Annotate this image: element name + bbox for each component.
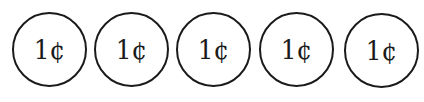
coin-label: 1¢ bbox=[281, 35, 312, 65]
coin-row: 1¢ 1¢ 1¢ 1¢ 1¢ bbox=[0, 0, 424, 102]
coin-label: 1¢ bbox=[116, 35, 147, 65]
coin-label: 1¢ bbox=[34, 35, 65, 65]
coin-1-cent: 1¢ bbox=[12, 12, 87, 87]
coin-1-cent: 1¢ bbox=[259, 12, 334, 87]
coin-1-cent: 1¢ bbox=[344, 13, 419, 88]
coin-1-cent: 1¢ bbox=[94, 12, 169, 87]
coin-label: 1¢ bbox=[366, 36, 397, 66]
coin-1-cent: 1¢ bbox=[176, 12, 251, 87]
coin-label: 1¢ bbox=[198, 35, 229, 65]
